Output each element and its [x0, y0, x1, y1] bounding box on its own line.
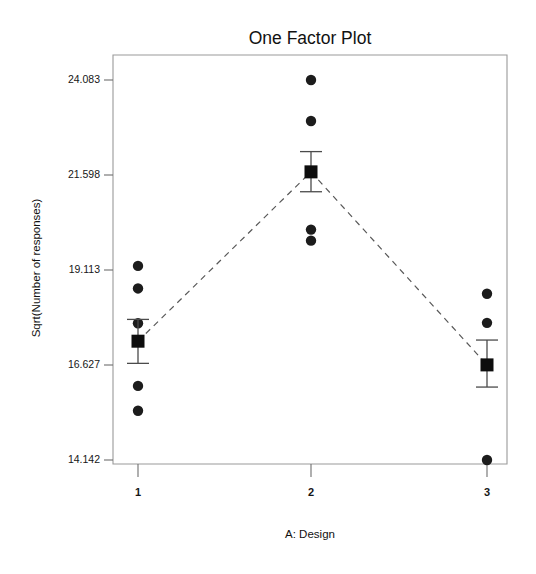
mean-marker	[132, 335, 145, 348]
data-point	[133, 381, 143, 391]
data-point	[306, 75, 316, 85]
data-point	[133, 283, 143, 293]
data-point	[482, 455, 492, 465]
data-point	[306, 224, 316, 234]
x-tick-label-3: 3	[484, 486, 490, 498]
data-point	[306, 116, 316, 126]
data-point	[133, 406, 143, 416]
mean-marker	[305, 165, 318, 178]
one-factor-plot-chart: One Factor Plot 24.083 21.598 19.113 16.…	[0, 0, 536, 574]
x-tick-label-2: 2	[308, 486, 314, 498]
data-point	[482, 289, 492, 299]
y-tick-label-2: 21.598	[68, 168, 100, 180]
data-groups-layer	[127, 75, 498, 465]
data-point	[306, 235, 316, 245]
y-tick-label-1: 24.083	[68, 73, 100, 85]
data-point	[482, 318, 492, 328]
data-group-2	[300, 75, 322, 246]
x-axis: 1 2 3	[135, 464, 490, 498]
x-axis-title: A: Design	[285, 528, 335, 540]
y-tick-label-5: 14.142	[68, 453, 100, 465]
data-point	[133, 261, 143, 271]
page-title: One Factor Plot	[249, 28, 372, 48]
x-tick-label-1: 1	[135, 486, 141, 498]
y-tick-label-4: 16.627	[68, 358, 100, 370]
data-group-3	[476, 289, 498, 466]
data-group-1	[127, 261, 149, 416]
y-tick-label-3: 19.113	[69, 263, 100, 275]
y-axis: 24.083 21.598 19.113 16.627 14.142	[68, 73, 113, 465]
plot-canvas: One Factor Plot 24.083 21.598 19.113 16.…	[0, 0, 536, 574]
mean-connector-line	[138, 172, 487, 365]
mean-marker	[481, 358, 494, 371]
y-axis-title: Sqrt(Number of responses)	[30, 198, 42, 337]
